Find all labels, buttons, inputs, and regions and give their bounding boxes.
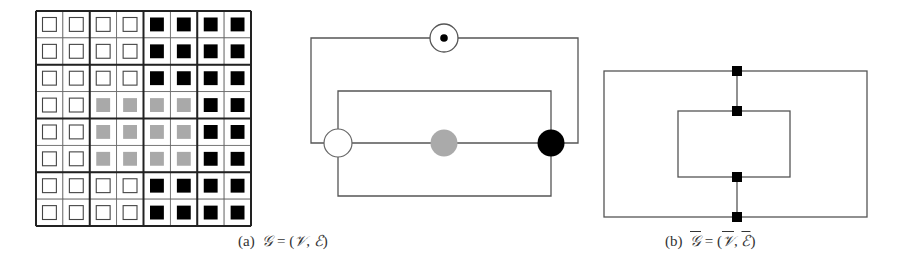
pixel-black: [204, 44, 218, 58]
caption-b-comma: ,: [734, 233, 738, 249]
pixel-black: [177, 206, 191, 220]
caption-a-vertex-symbol: 𝒱: [294, 232, 306, 250]
pixel-white: [123, 44, 137, 58]
pixel-gray: [123, 125, 137, 139]
pixel-gray: [123, 152, 137, 166]
pixel-black: [231, 44, 245, 58]
pixel-white: [69, 71, 83, 85]
pixel-black: [150, 71, 164, 85]
pixel-white: [43, 179, 57, 193]
pixel-black: [204, 98, 218, 112]
node-square-3: [732, 172, 742, 182]
node-square-2: [732, 106, 742, 116]
pixel-white: [96, 71, 110, 85]
pixel-gray: [150, 98, 164, 112]
pixel-black: [204, 152, 218, 166]
pixel-white: [69, 44, 83, 58]
node-square-1: [732, 66, 742, 76]
pixel-gray: [96, 152, 110, 166]
caption-a-close: ): [323, 233, 328, 249]
pixel-white: [43, 125, 57, 139]
inner-rect: [678, 111, 790, 177]
graph-a: [311, 38, 578, 196]
pixel-white: [69, 206, 83, 220]
caption-b: (b) 𝒢 = (𝒱, ℰ): [665, 232, 755, 250]
caption-a: (a) 𝒢 = (𝒱, ℰ): [238, 232, 328, 250]
pixel-white: [123, 179, 137, 193]
pixel-white: [123, 206, 137, 220]
outer-rect: [604, 71, 867, 217]
graph-b: [604, 71, 867, 217]
pixel-white: [43, 98, 57, 112]
pixel-black: [204, 179, 218, 193]
pixel-white: [96, 206, 110, 220]
pixel-white: [96, 44, 110, 58]
pixel-black: [231, 18, 245, 32]
pixel-white: [43, 44, 57, 58]
node-top-dot: [440, 34, 448, 42]
pixel-black: [204, 71, 218, 85]
pixel-black: [177, 44, 191, 58]
pixel-black: [231, 152, 245, 166]
node-gray: [431, 130, 458, 157]
pixel-white: [43, 18, 57, 32]
pixel-white: [96, 179, 110, 193]
pixel-black: [177, 18, 191, 32]
pixel-gray: [177, 98, 191, 112]
pixel-white: [43, 71, 57, 85]
caption-b-close: ): [750, 233, 755, 249]
figure-canvas: [0, 0, 910, 278]
pixel-black: [204, 206, 218, 220]
node-square-4: [732, 212, 742, 222]
pixel-white: [123, 18, 137, 32]
pixel-black: [231, 71, 245, 85]
pixel-grid: [36, 11, 251, 226]
caption-b-vertex-symbol: 𝒱: [722, 232, 734, 250]
pixel-black: [231, 179, 245, 193]
pixel-black: [231, 98, 245, 112]
caption-b-label: (b): [665, 233, 683, 249]
pixel-black: [150, 44, 164, 58]
pixel-white: [43, 206, 57, 220]
pixel-black: [204, 125, 218, 139]
pixel-white: [69, 179, 83, 193]
pixel-white: [69, 152, 83, 166]
pixel-white: [69, 18, 83, 32]
pixel-white: [123, 71, 137, 85]
caption-a-label: (a): [238, 233, 255, 249]
pixel-black: [231, 125, 245, 139]
pixel-black: [150, 18, 164, 32]
pixel-black: [150, 179, 164, 193]
pixel-gray: [150, 125, 164, 139]
pixel-black: [231, 206, 245, 220]
pixel-white: [69, 98, 83, 112]
caption-b-equals: =: [705, 233, 713, 249]
node-white: [324, 129, 352, 157]
pixel-black: [177, 71, 191, 85]
caption-b-graph-symbol: 𝒢: [690, 232, 701, 250]
pixel-gray: [177, 125, 191, 139]
pixel-black: [150, 206, 164, 220]
pixel-gray: [96, 98, 110, 112]
pixel-black: [204, 18, 218, 32]
pixel-white: [43, 152, 57, 166]
pixel-gray: [96, 125, 110, 139]
pixel-gray: [150, 152, 164, 166]
pixel-white: [69, 125, 83, 139]
caption-a-comma: ,: [306, 233, 310, 249]
pixel-gray: [123, 98, 137, 112]
pixel-gray: [177, 152, 191, 166]
caption-a-equals: =: [277, 233, 285, 249]
node-black: [538, 130, 565, 157]
caption-a-graph-symbol: 𝒢: [262, 232, 273, 250]
pixel-black: [177, 179, 191, 193]
pixel-white: [96, 18, 110, 32]
caption-a-edge-symbol: ℰ: [314, 232, 323, 250]
